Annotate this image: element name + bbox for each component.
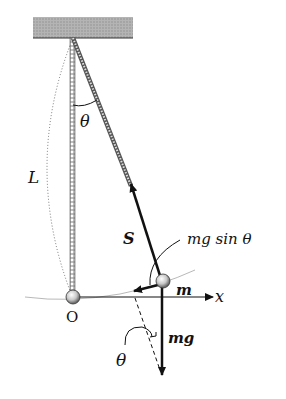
tangential-force-arrow (134, 285, 158, 291)
origin-label: O (66, 308, 78, 326)
angle-arc-top (73, 100, 97, 106)
mass-label: m (176, 281, 192, 299)
weight-label: mg (168, 329, 194, 347)
angle-label-bottom: θ (116, 350, 126, 370)
angle-label-top: θ (80, 112, 90, 131)
ceiling-support (33, 17, 133, 38)
length-arc (47, 40, 72, 296)
length-label: L (27, 167, 39, 187)
pendulum-diagram: L θ S mg sin θ m x O mg θ (0, 0, 286, 399)
tangential-force-label: mg sin θ (187, 230, 252, 248)
tension-arrow (131, 184, 162, 282)
tension-label: S (123, 229, 135, 248)
swing-arc (25, 270, 195, 299)
vertical-string (70, 38, 75, 295)
bob-displaced (156, 274, 170, 288)
angle-arc-bottom (125, 327, 152, 345)
x-axis-label: x (215, 287, 224, 306)
bob-origin (66, 290, 80, 304)
